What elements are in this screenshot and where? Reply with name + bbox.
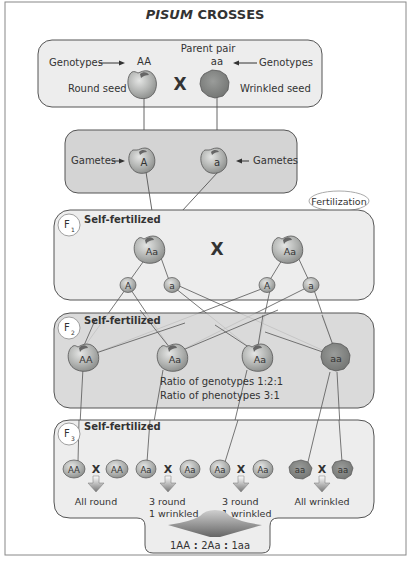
svg-text:All wrinkled: All wrinkled (294, 496, 349, 507)
parent-pair-heading: Parent pair (181, 43, 236, 54)
f1-badge: F 1 (58, 214, 80, 236)
svg-text:F: F (64, 322, 70, 333)
gametes-left-label: Gametes (71, 155, 116, 166)
genotypes-left-label: Genotypes (49, 57, 103, 68)
svg-text:Aa: Aa (169, 354, 181, 365)
svg-text:a: a (214, 157, 220, 168)
svg-text:Aa: Aa (284, 246, 296, 257)
svg-text:A: A (125, 281, 132, 291)
parent-wrinkled-genotype: aa (211, 56, 223, 67)
svg-text:Aa: Aa (257, 465, 268, 475)
svg-text:3 round: 3 round (222, 496, 259, 507)
svg-text:aa: aa (338, 465, 348, 475)
svg-text:AA: AA (68, 465, 80, 475)
f1-gamete-a-right-icon: a (303, 278, 319, 293)
f3-heading: Self-fertilized (84, 421, 161, 432)
parent-round-genotype: AA (137, 56, 151, 67)
pisum-crosses-diagram: PISUM CROSSES Parent pair Genotypes AA a… (0, 0, 411, 562)
f2-heading: Self-fertilized (84, 315, 161, 326)
svg-text:aa: aa (295, 465, 305, 475)
svg-text:2: 2 (71, 329, 75, 336)
gamete-A-seed-icon: A (129, 148, 155, 173)
svg-text:Aa: Aa (140, 465, 151, 475)
f3-badge: F 3 (58, 423, 80, 445)
f1-gamete-A-left-icon: A (120, 278, 136, 293)
f2-seed-Aa-left-icon: Aa (157, 344, 188, 371)
svg-text:X: X (318, 463, 327, 476)
svg-text:A: A (264, 281, 271, 291)
svg-text:a: a (308, 281, 314, 291)
final-ratio: 1AA : 2Aa : 1aa (170, 540, 250, 551)
round-seed-label: Round seed (68, 83, 127, 94)
ratio-phenotypes: Ratio of phenotypes 3:1 (160, 390, 280, 401)
parent-cross-symbol: X (173, 74, 186, 94)
svg-text:All round: All round (75, 496, 117, 507)
f2-seed-AA-icon: AA (68, 344, 99, 371)
f1-gamete-a-left-icon: a (164, 278, 180, 293)
svg-text:F: F (64, 219, 70, 230)
svg-text:A: A (141, 157, 148, 168)
svg-text:Aa: Aa (146, 246, 158, 257)
svg-text:X: X (92, 463, 101, 476)
f2-badge: F 2 (58, 317, 80, 339)
f2-seed-Aa-right-icon: Aa (242, 344, 273, 371)
svg-text:AA: AA (79, 354, 93, 365)
svg-text:1: 1 (71, 226, 75, 233)
round-seed-icon (128, 71, 157, 99)
svg-text:1 wrinkled: 1 wrinkled (149, 508, 198, 519)
svg-text:AA: AA (111, 465, 123, 475)
f1-seed-left-icon: Aa (134, 236, 165, 263)
f1-cross-symbol: X (210, 239, 223, 259)
gamete-a-seed-icon: a (201, 148, 227, 173)
svg-text:3 round: 3 round (149, 496, 186, 507)
gametes-right-label: Gametes (253, 155, 298, 166)
f1-heading: Self-fertilized (84, 214, 161, 225)
svg-text:Aa: Aa (254, 354, 266, 365)
f1-seed-right-icon: Aa (272, 236, 303, 263)
svg-text:X: X (164, 463, 173, 476)
svg-text:F: F (64, 428, 70, 439)
svg-text:X: X (237, 463, 246, 476)
svg-text:Aa: Aa (184, 465, 195, 475)
wrinkled-seed-label: Wrinkled seed (240, 83, 311, 94)
ratio-genotypes: Ratio of genotypes 1:2:1 (160, 376, 283, 387)
svg-text:a: a (169, 281, 175, 291)
fertilization-label: Fertilization (309, 191, 369, 211)
f1-gamete-A-right-icon: A (259, 278, 275, 293)
svg-text:aa: aa (330, 353, 342, 364)
svg-text:3: 3 (71, 435, 75, 442)
page-title: PISUM CROSSES (146, 7, 265, 22)
genotypes-right-label: Genotypes (259, 57, 313, 68)
svg-text:Aa: Aa (214, 465, 225, 475)
svg-text:Fertilization: Fertilization (311, 196, 366, 207)
